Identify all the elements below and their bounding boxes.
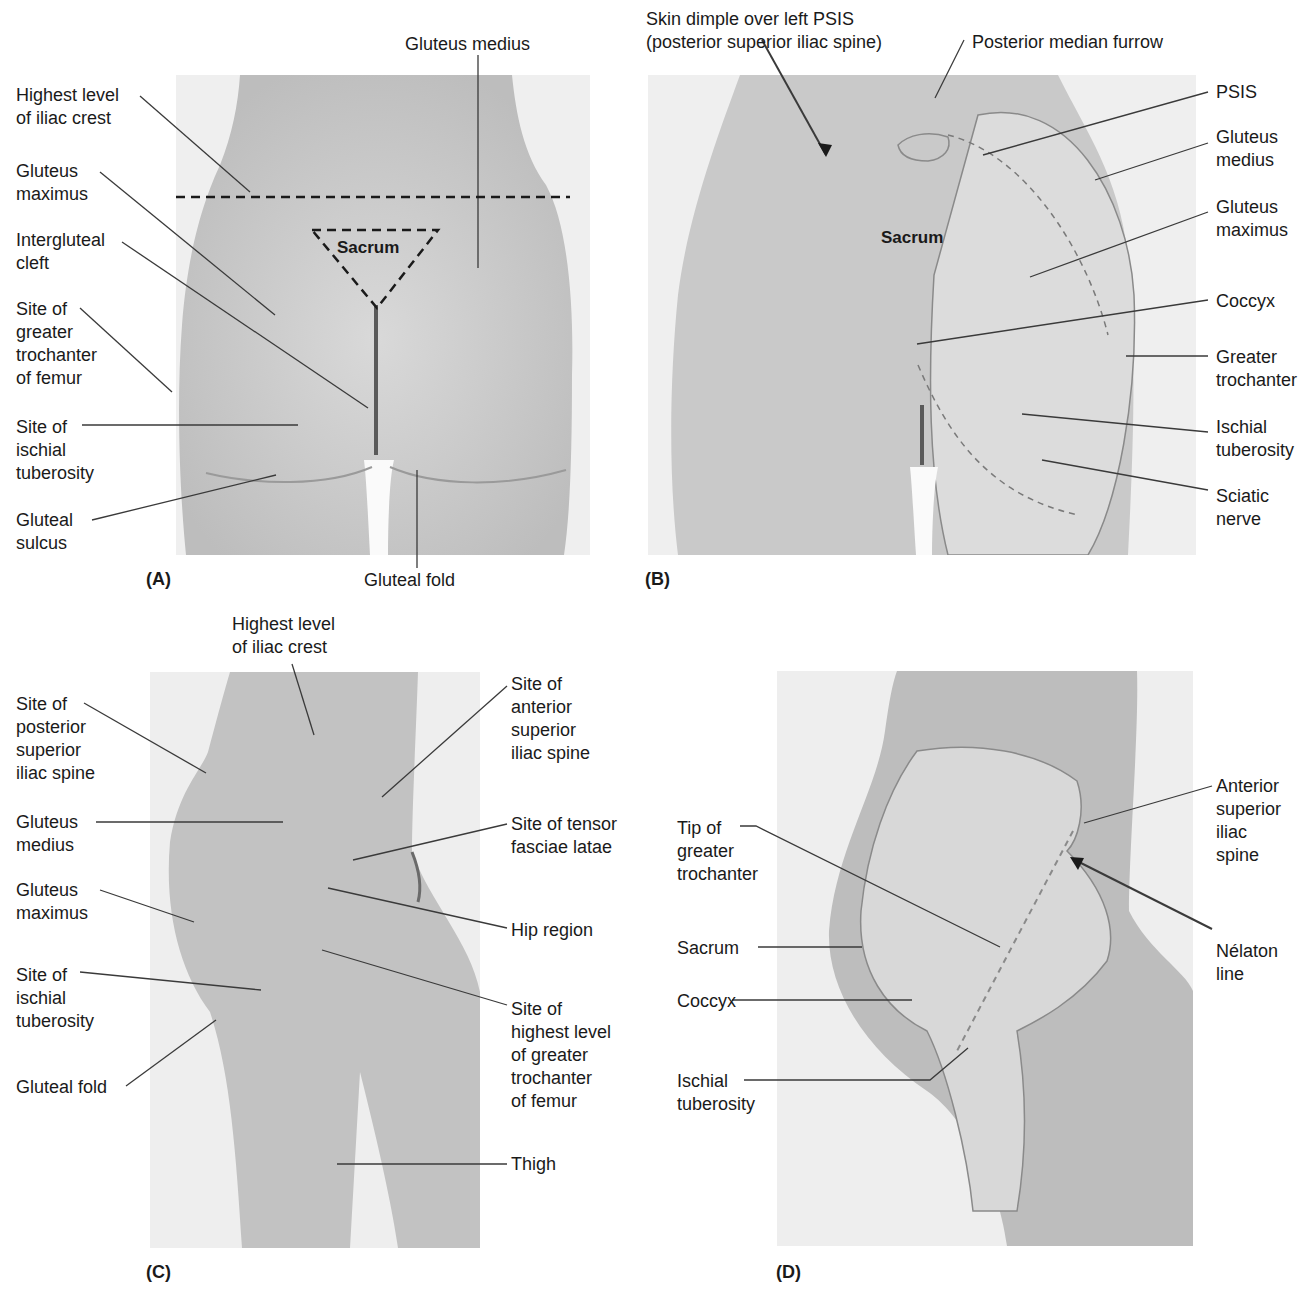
- panel-b-body-silhouette: [648, 75, 1196, 555]
- panel-b-photo: [648, 75, 1196, 555]
- label-b-posterior-median-furrow: Posterior median furrow: [972, 31, 1163, 54]
- label-b-sciatic-nerve: Sciatic nerve: [1216, 485, 1269, 531]
- label-c-thigh: Thigh: [511, 1153, 556, 1176]
- panel-c-letter: (C): [146, 1262, 171, 1283]
- label-a-gluteal-sulcus: Gluteal sulcus: [16, 509, 73, 555]
- label-a-gluteus-maximus: Gluteus maximus: [16, 160, 88, 206]
- label-b-skin-dimple: Skin dimple over left PSIS (posterior su…: [646, 8, 882, 54]
- label-c-hip-region: Hip region: [511, 919, 593, 942]
- label-d-sacrum: Sacrum: [677, 937, 739, 960]
- label-a-greater-trochanter: Site of greater trochanter of femur: [16, 298, 97, 390]
- label-c-tensor-fasciae-latae: Site of tensor fasciae latae: [511, 813, 617, 859]
- label-c-gluteus-maximus: Gluteus maximus: [16, 879, 88, 925]
- label-a-ischial-tuberosity: Site of ischial tuberosity: [16, 416, 94, 485]
- label-b-coccyx: Coccyx: [1216, 290, 1275, 313]
- panel-c-photo: [150, 672, 480, 1248]
- label-c-highest-iliac-crest: Highest level of iliac crest: [232, 613, 335, 659]
- label-b-greater-trochanter: Greater trochanter: [1216, 346, 1297, 392]
- panel-a-body-silhouette: [176, 75, 590, 555]
- panel-a-sacrum-label: Sacrum: [337, 238, 399, 258]
- label-b-gluteus-maximus: Gluteus maximus: [1216, 196, 1288, 242]
- label-c-gluteus-medius: Gluteus medius: [16, 811, 78, 857]
- panel-d-body-silhouette: [777, 671, 1193, 1246]
- panel-d-letter: (D): [776, 1262, 801, 1283]
- label-c-ischial-tuberosity: Site of ischial tuberosity: [16, 964, 94, 1033]
- panel-b-sacrum-label: Sacrum: [881, 228, 943, 248]
- panel-b-letter: (B): [645, 569, 670, 590]
- label-c-psis-site: Site of posterior superior iliac spine: [16, 693, 95, 785]
- label-d-coccyx: Coccyx: [677, 990, 736, 1013]
- label-b-ischial-tuberosity: Ischial tuberosity: [1216, 416, 1294, 462]
- panel-c-body-silhouette: [150, 672, 480, 1248]
- panel-d-photo: [777, 671, 1193, 1246]
- panel-a-letter: (A): [146, 569, 171, 590]
- label-b-gluteus-medius: Gluteus medius: [1216, 126, 1278, 172]
- label-d-asis: Anterior superior iliac spine: [1216, 775, 1281, 867]
- label-c-gluteal-fold: Gluteal fold: [16, 1076, 107, 1099]
- label-a-intergluteal-cleft: Intergluteal cleft: [16, 229, 105, 275]
- label-d-tip-greater-trochanter: Tip of greater trochanter: [677, 817, 758, 886]
- label-c-asis-site: Site of anterior superior iliac spine: [511, 673, 590, 765]
- panel-a-photo: [176, 75, 590, 555]
- label-b-psis: PSIS: [1216, 81, 1257, 104]
- label-c-greater-trochanter-site: Site of highest level of greater trochan…: [511, 998, 611, 1113]
- label-d-ischial-tuberosity: Ischial tuberosity: [677, 1070, 755, 1116]
- label-a-gluteal-fold: Gluteal fold: [364, 569, 455, 592]
- label-a-highest-iliac-crest: Highest level of iliac crest: [16, 84, 119, 130]
- label-a-gluteus-medius: Gluteus medius: [405, 33, 530, 56]
- label-d-nelaton-line: Nélaton line: [1216, 940, 1278, 986]
